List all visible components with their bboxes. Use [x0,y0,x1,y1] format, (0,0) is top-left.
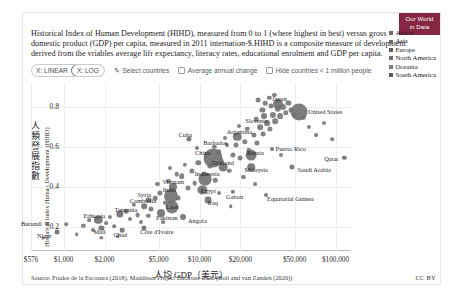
data-point[interactable] [157,190,162,195]
legend-swatch-icon [389,56,393,60]
data-point[interactable] [65,222,69,226]
data-point-label: Japan [272,95,287,102]
data-point[interactable] [104,221,108,225]
data-point[interactable] [146,214,150,218]
data-point[interactable] [255,141,260,146]
chart-card: Our World in Data Historical Index of Hu… [22,12,441,285]
data-point-label: Indonesia [195,170,220,177]
data-point[interactable] [168,166,172,170]
legend-label: Oceania [395,63,417,71]
data-point[interactable] [227,169,231,173]
data-point[interactable] [307,125,311,129]
data-point[interactable] [291,104,308,121]
data-point-label: Laos [166,203,178,210]
data-point-label: Ethiopia [83,212,105,219]
data-point[interactable] [161,220,165,224]
pencil-icon: ✎ [114,67,120,75]
data-point[interactable] [238,156,243,161]
data-point[interactable] [258,124,264,130]
legend-swatch-icon [389,40,393,44]
data-point[interactable] [141,203,147,209]
data-point[interactable] [108,215,112,219]
y-tick-label: 0.8 [37,102,59,111]
data-point[interactable] [267,126,272,131]
data-point[interactable] [260,107,265,112]
average-annual-change-checkbox[interactable]: Average annual change [178,67,257,74]
data-point[interactable] [192,181,197,186]
data-point[interactable] [272,118,278,124]
x-tick-label: $100,000 [322,256,349,264]
scatter-plot-area: BurundiNigerMaliEthiopiaChadCôte d'Ivoir… [31,83,351,251]
data-point[interactable] [185,186,190,191]
source-text: Source: Prados de la Escosura (2018), Ma… [31,274,292,281]
x-axis-line [31,250,351,251]
data-point[interactable] [331,137,335,141]
data-point[interactable] [213,178,218,183]
data-point[interactable] [267,96,271,100]
data-point-label: Malaysia [245,166,268,173]
data-point[interactable] [183,163,187,167]
select-countries-label: Select countries [122,67,169,74]
data-point[interactable] [253,182,257,186]
x-scale-log-option[interactable]: X: LOG [71,64,105,77]
data-point[interactable] [277,113,283,119]
data-point[interactable] [174,172,179,177]
data-point[interactable] [217,191,221,195]
y-tick-label: 0.4 [37,182,59,191]
hide-small-countries-checkbox[interactable]: Hide countries < 1 million people [266,67,371,74]
x-scale-toggle[interactable]: X: LINEAR X: LOG [31,64,105,77]
data-point[interactable] [283,110,288,115]
data-point[interactable] [229,204,233,208]
data-point[interactable] [242,139,247,144]
legend-item[interactable]: Europe [389,46,436,54]
data-point[interactable] [261,132,266,137]
data-point[interactable] [75,232,79,236]
data-point[interactable] [230,152,235,157]
data-point-label: Vietnam [162,178,184,185]
data-point[interactable] [149,207,154,212]
data-point[interactable] [139,220,143,224]
data-point[interactable] [256,98,261,103]
data-point[interactable] [270,147,274,151]
legend-item[interactable]: Asia [389,37,436,45]
data-point[interactable] [112,224,116,228]
legend-item[interactable]: Africa [389,29,436,37]
data-point-label: Iraq [208,199,218,206]
x-scale-linear-option[interactable]: X: LINEAR [32,65,72,76]
x-gridline [240,83,241,251]
data-point-label: India [163,186,176,193]
y-gridline [31,227,351,228]
data-point[interactable] [135,213,140,218]
legend-item[interactable]: South America [389,71,436,79]
data-point-label: Tanzania [114,206,137,213]
data-point[interactable] [263,101,268,106]
legend-item[interactable]: Oceania [389,63,436,71]
select-countries-button[interactable]: ✎ Select countries [114,67,169,75]
x-tick-label: $50,000 [283,256,306,264]
y-tick-label: 0.2 [37,222,59,231]
chart-subtitle: Historical Index of Human Development (H… [31,29,416,60]
data-point[interactable] [322,121,326,125]
data-point[interactable] [314,133,318,137]
data-point[interactable] [233,143,238,148]
legend-swatch-icon [389,48,393,52]
legend-item[interactable]: North America [389,54,436,62]
data-point-label: Puerto Rico [276,145,306,152]
x-gridline [105,83,106,251]
data-point[interactable] [88,218,92,222]
data-point[interactable] [241,175,245,179]
x-gridline [159,83,160,251]
legend-label: Africa [395,29,412,37]
x-tick-label: $2,000 [95,256,115,264]
hide-small-countries-label: Hide countries < 1 million people [276,67,371,74]
data-point[interactable] [180,214,186,220]
data-point-label: United States [308,108,342,115]
license-link[interactable]: CC BY [415,274,436,281]
data-point[interactable] [128,217,132,221]
data-point[interactable] [270,112,276,118]
data-point[interactable] [342,156,346,160]
data-point-label: Slovenia [245,117,267,124]
data-point[interactable] [100,236,103,239]
data-point[interactable] [279,153,283,157]
checkbox-icon [178,67,185,74]
